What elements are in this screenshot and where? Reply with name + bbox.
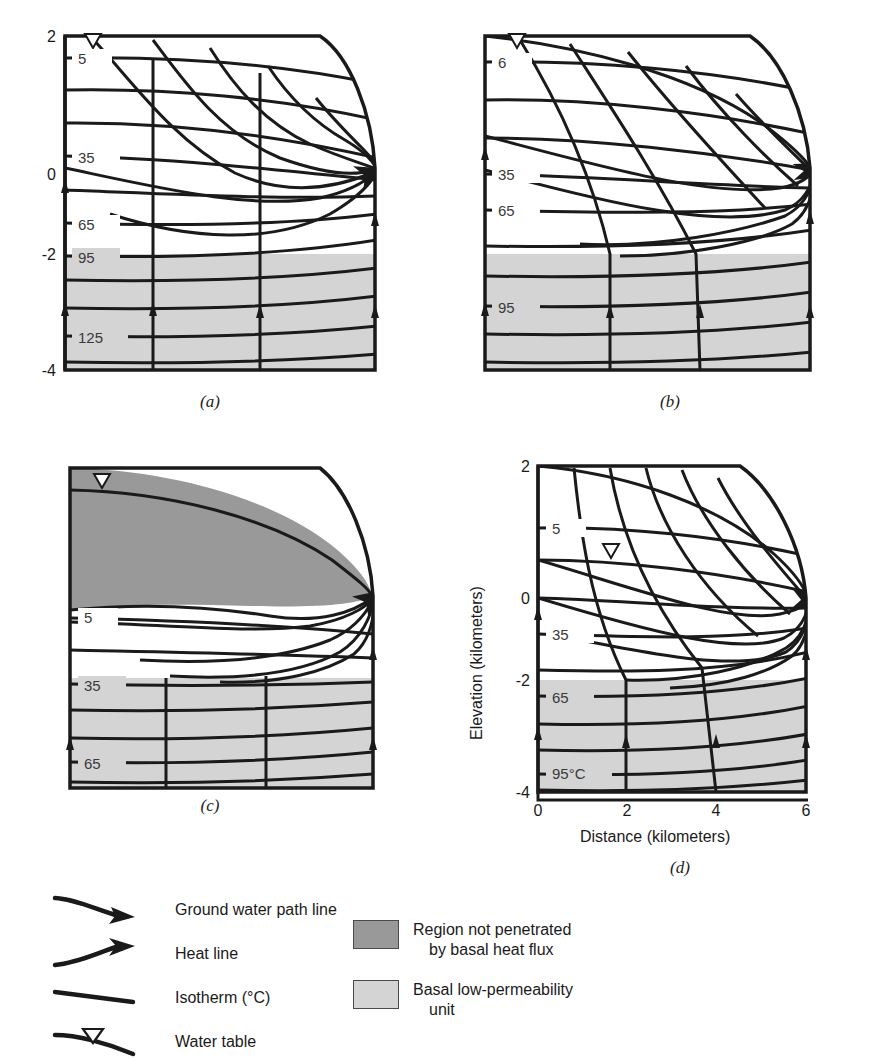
- isotherm-label: 95°C: [552, 765, 586, 782]
- legend-row-heatline: Heat line: [45, 937, 337, 971]
- y-tick-label: -2: [516, 672, 530, 689]
- panel-c: 5 35 65: [20, 448, 400, 808]
- isotherm-label: 65: [552, 689, 569, 706]
- panel-b-plot: 6 35 65 95: [460, 18, 840, 388]
- y-axis-a: 2 0 -2 -4: [42, 28, 56, 379]
- isotherm-line-icon: [45, 981, 175, 1015]
- isotherm-label: 65: [78, 216, 95, 233]
- y-axis-title-d: Elevation (kilometers): [468, 586, 486, 740]
- x-axis-title-d: Distance (kilometers): [580, 828, 730, 846]
- x-tick-label: 6: [802, 802, 811, 819]
- legend-row-watertable: Water table: [45, 1025, 337, 1059]
- heat-line-arrow-icon: [45, 937, 175, 971]
- panel-b-label: (b): [640, 392, 700, 412]
- isotherm-label: 6: [498, 54, 506, 71]
- y-tick-label: 2: [521, 458, 530, 475]
- isotherm-label: 35: [84, 677, 101, 694]
- legend-swatches: Region not penetrated by basal heat flux…: [353, 920, 573, 1040]
- panel-d: 2 0 -2 -4 0 2 4 6: [440, 448, 860, 848]
- isotherm-label: 35: [552, 626, 569, 643]
- x-tick-label: 2: [623, 802, 632, 819]
- legend-swatch-label-line2: by basal heat flux: [413, 940, 571, 960]
- isotherm-label: 95: [78, 249, 95, 266]
- y-tick-label: 0: [47, 166, 56, 183]
- legend-label: Ground water path line: [175, 900, 337, 920]
- water-table-icon: [603, 544, 619, 558]
- panel-d-plot: 2 0 -2 -4 0 2 4 6: [440, 448, 860, 848]
- basal-unit-swatch: [353, 980, 399, 1009]
- isotherm-label: 125: [78, 329, 103, 346]
- y-tick-label: -4: [516, 784, 530, 801]
- legend-row-groundwater: Ground water path line: [45, 893, 337, 927]
- panel-d-label: (d): [650, 858, 710, 878]
- dark-region-swatch: [353, 920, 399, 949]
- panel-a-plot: 2 0 -2 -4: [20, 18, 390, 388]
- isotherm-label: 5: [552, 520, 560, 537]
- panel-a: 2 0 -2 -4: [20, 18, 390, 388]
- legend-symbols: Ground water path line Heat line Isother…: [45, 893, 337, 1061]
- groundwater-path-arrow-icon: [45, 893, 175, 927]
- legend-swatch-row-basal: Basal low-permeability unit: [353, 980, 573, 1020]
- panel-b: 6 35 65 95: [460, 18, 840, 388]
- y-tick-label: -2: [42, 246, 56, 263]
- isotherm-label: 35: [498, 166, 515, 183]
- y-tick-label: -4: [42, 362, 56, 379]
- legend-row-isotherm: Isotherm (°C): [45, 981, 337, 1015]
- isotherm-label: 95: [498, 299, 515, 316]
- y-axis-d: 2 0 -2 -4: [516, 458, 530, 801]
- x-tick-label: 0: [534, 802, 543, 819]
- isotherm-label: 35: [78, 149, 95, 166]
- legend-label: Isotherm (°C): [175, 988, 270, 1008]
- isotherm-label: 65: [498, 202, 515, 219]
- legend-swatch-label: Basal low-permeability: [413, 981, 573, 998]
- panel-a-label: (a): [180, 392, 240, 412]
- y-tick-label: 2: [47, 28, 56, 45]
- isotherm-label: 5: [78, 50, 86, 67]
- legend-swatch-row-dark: Region not penetrated by basal heat flux: [353, 920, 573, 960]
- isotherm-label: 5: [84, 609, 92, 626]
- legend-label: Water table: [175, 1032, 256, 1052]
- dark-region-c: [70, 468, 372, 610]
- panel-c-plot: 5 35 65: [20, 448, 400, 808]
- water-table-icon: [45, 1025, 175, 1059]
- legend-swatch-label: Region not penetrated: [413, 921, 571, 938]
- y-tick-label: 0: [521, 590, 530, 607]
- legend-label: Heat line: [175, 944, 238, 964]
- x-tick-label: 4: [712, 802, 721, 819]
- legend-swatch-label-line2: unit: [413, 1000, 573, 1020]
- x-axis-d: 0 2 4 6: [534, 802, 811, 819]
- isotherm-label: 65: [84, 755, 101, 772]
- basal-unit-region-c: [70, 678, 380, 790]
- panel-c-label: (c): [180, 796, 240, 816]
